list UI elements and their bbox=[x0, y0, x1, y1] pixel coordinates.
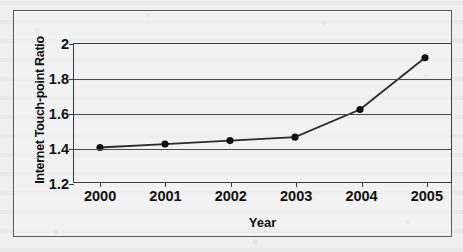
y-axis-title: Internet Touch-point Ratio bbox=[30, 35, 50, 185]
data-point-2005 bbox=[421, 54, 428, 61]
x-tick-label-2000: 2000 bbox=[84, 189, 116, 204]
x-tick-mark-2005 bbox=[427, 182, 428, 187]
gridline-y-1.8 bbox=[74, 79, 451, 80]
gridline-y-1.6 bbox=[74, 114, 451, 115]
data-point-2001 bbox=[161, 141, 168, 148]
x-tick-label-2005: 2005 bbox=[411, 189, 443, 204]
y-tick-label-1.4: 1.4 bbox=[49, 142, 69, 157]
x-tick-label-2001: 2001 bbox=[149, 189, 181, 204]
series-polyline bbox=[100, 58, 425, 148]
x-tick-label-2002: 2002 bbox=[215, 189, 247, 204]
y-tick-mark-1.2 bbox=[69, 184, 74, 185]
y-tick-label-1.8: 1.8 bbox=[49, 72, 69, 87]
plot-area: Year 1.21.41.61.822000200120022003200420… bbox=[73, 43, 452, 183]
data-point-2004 bbox=[356, 106, 363, 113]
y-tick-label-1.6: 1.6 bbox=[49, 107, 69, 122]
chart-outer-frame: Internet Touch-point Ratio Year 1.21.41.… bbox=[13, 10, 452, 237]
x-tick-label-2003: 2003 bbox=[280, 189, 312, 204]
y-tick-label-1.2: 1.2 bbox=[49, 177, 69, 192]
x-tick-mark-2002 bbox=[231, 182, 232, 187]
series-line-internet-touch-point-ratio bbox=[74, 44, 451, 182]
y-tick-label-2: 2 bbox=[61, 37, 69, 52]
y-axis-title-label: Internet Touch-point Ratio bbox=[33, 36, 47, 184]
x-tick-mark-2000 bbox=[100, 182, 101, 187]
x-tick-mark-2003 bbox=[296, 182, 297, 187]
y-tick-mark-2 bbox=[69, 44, 74, 45]
data-point-2002 bbox=[226, 137, 233, 144]
x-tick-label-2004: 2004 bbox=[345, 189, 377, 204]
gridline-y-1.4 bbox=[74, 149, 451, 150]
x-tick-mark-2001 bbox=[165, 182, 166, 187]
y-tick-mark-1.6 bbox=[69, 114, 74, 115]
data-point-2003 bbox=[291, 134, 298, 141]
x-tick-mark-2004 bbox=[362, 182, 363, 187]
y-tick-mark-1.8 bbox=[69, 79, 74, 80]
y-tick-mark-1.4 bbox=[69, 149, 74, 150]
x-axis-title: Year bbox=[74, 215, 451, 230]
